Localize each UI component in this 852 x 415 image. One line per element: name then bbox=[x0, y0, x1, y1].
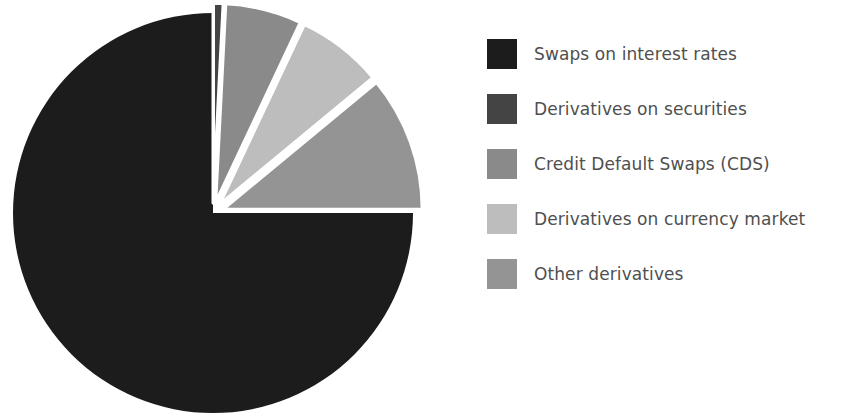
legend-item-other-derivatives[interactable]: Other derivatives bbox=[487, 246, 847, 301]
legend-swatch-icon bbox=[487, 204, 517, 234]
legend-item-credit-default-swaps[interactable]: Credit Default Swaps (CDS) bbox=[487, 136, 847, 191]
legend-item-label: Derivatives on currency market bbox=[534, 209, 805, 229]
pie-chart-figure: Swaps on interest rates Derivatives on s… bbox=[0, 0, 852, 415]
legend-swatch-icon bbox=[487, 259, 517, 289]
pie-slice-group bbox=[13, 3, 422, 413]
legend-swatch-icon bbox=[487, 94, 517, 124]
legend-item-derivatives-on-securities[interactable]: Derivatives on securities bbox=[487, 81, 847, 136]
legend-item-derivatives-on-currency-market[interactable]: Derivatives on currency market bbox=[487, 191, 847, 246]
pie-svg bbox=[0, 0, 470, 415]
legend-swatch-icon bbox=[487, 149, 517, 179]
legend-item-label: Credit Default Swaps (CDS) bbox=[534, 154, 770, 174]
legend-item-label: Derivatives on securities bbox=[534, 99, 747, 119]
legend-swatch-icon bbox=[487, 39, 517, 69]
chart-legend: Swaps on interest rates Derivatives on s… bbox=[487, 26, 847, 301]
legend-item-label: Swaps on interest rates bbox=[534, 44, 737, 64]
legend-item-swaps-on-interest-rates[interactable]: Swaps on interest rates bbox=[487, 26, 847, 81]
legend-item-label: Other derivatives bbox=[534, 264, 684, 284]
pie-plot-area bbox=[0, 0, 470, 415]
